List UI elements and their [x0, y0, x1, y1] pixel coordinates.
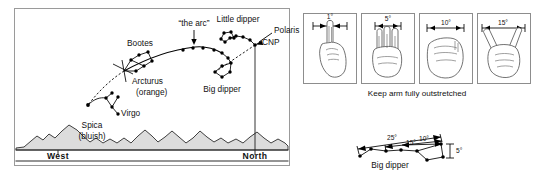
hand-panel-15deg: 15°	[478, 14, 531, 84]
dim-label-5: 5°	[456, 147, 463, 154]
dim-label-25: 25°	[387, 134, 397, 141]
sky-chart-panel: Bootes “the arc” Little dipper Polaris C…	[15, 9, 300, 166]
label-virgo: Virgo	[121, 108, 141, 118]
figure-canvas: Bootes “the arc” Little dipper Polaris C…	[0, 0, 537, 175]
hand-angle-label-15: 15°	[498, 19, 508, 26]
dipper-angle-lines	[360, 144, 443, 160]
label-west: West	[47, 151, 69, 161]
dim-label-15: 15°	[406, 139, 416, 146]
label-little-dipper: Little dipper	[217, 14, 260, 24]
hand-panel-5deg: 5°	[362, 14, 415, 84]
label-bootes: Bootes	[127, 38, 153, 48]
label-cnp: CNP	[262, 37, 280, 47]
hand-guide-panel: 1° 5°	[304, 13, 531, 98]
hand-panel-1deg: 1°	[304, 13, 357, 84]
label-spica-color: (bluish)	[78, 131, 105, 141]
label-arcturus-color: (orange)	[136, 87, 168, 97]
hand-angle-label-10: 10°	[441, 19, 451, 26]
hand-angle-label-1: 1°	[327, 13, 334, 20]
label-spica: Spica	[82, 120, 103, 130]
hand-guide-caption: Keep arm fully outstretched	[368, 89, 467, 98]
hand-angle-label-5: 5°	[385, 15, 392, 22]
label-north: North	[243, 151, 268, 161]
label-arcturus: Arcturus	[132, 76, 163, 86]
dim-25-arrow-left	[358, 146, 366, 151]
hand-panel-10deg: 10°	[420, 14, 473, 84]
figure-root: Bootes “the arc” Little dipper Polaris C…	[0, 0, 537, 175]
dipper-angles-panel: 25° 15° 10° 5° Big dipper	[357, 134, 463, 170]
label-big-dipper: Big dipper	[203, 84, 241, 94]
dipper-angles-label: Big dipper	[371, 160, 409, 170]
dim-label-10: 10°	[419, 135, 429, 142]
label-the-arc: “the arc”	[179, 18, 210, 28]
dim-25-tick-left	[357, 146, 359, 154]
label-polaris: Polaris	[274, 25, 299, 35]
